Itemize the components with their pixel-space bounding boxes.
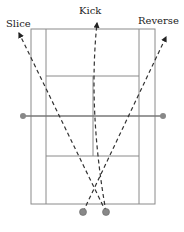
reverse-label: Reverse — [138, 16, 179, 26]
right-net-post — [160, 113, 166, 119]
kick-label: Kick — [79, 6, 101, 16]
serve-trajectory-diagram: Slice Kick Reverse — [0, 0, 184, 232]
court-drawing — [0, 0, 184, 232]
slice-label: Slice — [6, 19, 31, 29]
ball-right — [103, 209, 110, 216]
ball-left — [80, 209, 87, 216]
left-net-post — [20, 113, 26, 119]
